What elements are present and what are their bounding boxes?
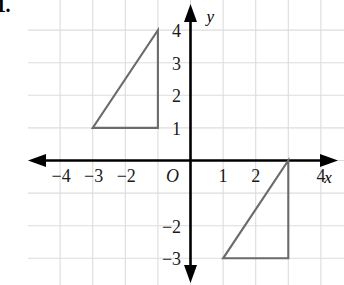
y-tick-label: 3 [172, 54, 181, 74]
y-tick-label: −3 [162, 249, 181, 269]
x-tick-label: −2 [117, 166, 136, 186]
y-tick-label: 2 [172, 86, 181, 106]
x-axis-arrow-left [28, 154, 46, 167]
y-axis-label: y [205, 7, 215, 26]
y-axis-arrow-up [184, 4, 197, 22]
axes [28, 4, 338, 283]
x-tick-label: 1 [219, 166, 228, 186]
x-tick-label: −3 [84, 166, 103, 186]
y-tick-label: −2 [162, 217, 181, 237]
x-axis-label: x [323, 168, 332, 187]
coordinate-plot: −4−3−21244321−2−3Oyx [0, 0, 344, 285]
coordinate-plane-figure: 1. −4−3−21244321−2−3Oyx [0, 0, 344, 285]
y-tick-label: 1 [172, 119, 181, 139]
y-axis-arrow-down [184, 265, 197, 283]
grid-lines [28, 0, 344, 285]
x-tick-label: 2 [251, 166, 260, 186]
tick-labels: −4−3−21244321−2−3Oyx [52, 7, 333, 269]
origin-label: O [166, 166, 179, 186]
y-tick-label: 4 [172, 21, 181, 41]
x-tick-label: −4 [52, 166, 71, 186]
exercise-number: 1. [0, 0, 10, 15]
